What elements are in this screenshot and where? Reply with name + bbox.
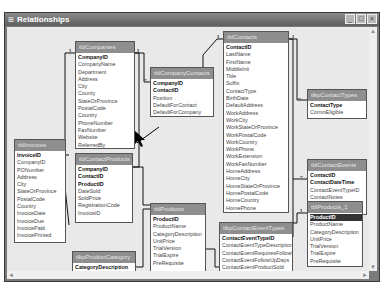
table-tblCompanies[interactable]: tblCompanies CompanyIDCompanyNameDepartm… — [75, 41, 135, 149]
field-item[interactable]: WorkPostalCode — [226, 132, 288, 139]
field-item[interactable]: DefaultAddress — [226, 102, 288, 109]
table-tblContactProducts[interactable]: tblContactProducts CompanyIDContactIDPro… — [75, 153, 133, 223]
field-item[interactable]: ProductName — [310, 221, 362, 228]
field-item[interactable]: TrialVersion — [310, 243, 362, 250]
title-bar[interactable]: ⊞ Relationships _ □ × — [5, 13, 379, 26]
maximize-button[interactable]: □ — [356, 14, 366, 24]
field-item[interactable]: InvoiceID — [78, 210, 132, 217]
field-item[interactable]: StateOrProvince — [78, 98, 134, 105]
field-item[interactable]: City — [17, 181, 65, 188]
table-header[interactable]: tblCompanies — [76, 42, 134, 53]
scroll-up-arrow-icon[interactable]: ▲ — [369, 27, 377, 35]
table-header[interactable]: tblContactProducts — [76, 154, 132, 165]
scroll-right-arrow-icon[interactable]: ► — [361, 271, 369, 279]
field-item[interactable]: ProductName — [153, 223, 205, 230]
table-header[interactable]: tblContacts — [224, 32, 288, 43]
table-header[interactable]: tlkpContactEventTypes — [220, 223, 292, 234]
field-item[interactable]: StateOrProvince — [17, 188, 65, 195]
field-item[interactable]: CategoryDescription — [153, 231, 205, 238]
table-header[interactable]: tblProducts — [151, 204, 205, 215]
field-item[interactable]: WorkFaxNumber — [226, 161, 288, 168]
field-item[interactable]: SoldPrice — [78, 195, 132, 202]
field-item[interactable]: CompanyID — [17, 159, 65, 166]
field-item[interactable]: ContactEventTypeDescription — [222, 242, 292, 249]
table-tblCompanyContacts[interactable]: tblCompanyContacts CompanyIDContactIDPos… — [150, 67, 214, 117]
field-item[interactable]: Address — [17, 174, 65, 181]
field-item[interactable]: ContactDateTime — [310, 179, 366, 186]
minimize-button[interactable]: _ — [345, 14, 355, 24]
field-item[interactable]: Country — [17, 203, 65, 210]
field-item[interactable]: ContactID — [310, 172, 366, 179]
field-item[interactable]: Title — [226, 73, 288, 80]
field-item[interactable]: InvoiceDate — [17, 210, 65, 217]
field-item[interactable]: ProductID — [78, 181, 132, 188]
field-item[interactable]: ContactEventFollowUpDays — [222, 257, 292, 264]
field-item[interactable]: PostalCode — [17, 196, 65, 203]
field-item[interactable]: MiddleInit — [226, 66, 288, 73]
field-item[interactable]: ProductID — [310, 214, 362, 221]
field-item[interactable]: HomeStateOrProvince — [226, 183, 288, 190]
field-item[interactable]: TrialExpire — [310, 250, 362, 257]
close-button[interactable]: × — [367, 14, 377, 24]
field-item[interactable]: CompanyName — [78, 61, 134, 68]
table-tblContacts[interactable]: tblContacts ContactIDLastNameFirstNameMi… — [223, 31, 289, 213]
field-item[interactable]: County — [78, 90, 134, 97]
field-item[interactable]: ContactType — [310, 102, 366, 109]
field-item[interactable]: HomeCity — [226, 175, 288, 182]
table-header[interactable]: tblProducts_1 — [308, 202, 362, 213]
field-item[interactable]: WorkStateOrProvince — [226, 124, 288, 131]
field-item[interactable]: ReferredBy — [78, 142, 134, 149]
table-header[interactable]: tblCompanyContacts — [151, 68, 213, 79]
field-item[interactable]: Department — [78, 69, 134, 76]
field-item[interactable]: DateSold — [78, 188, 132, 195]
field-item[interactable]: HomeCountry — [226, 197, 288, 204]
field-item[interactable]: LastName — [226, 51, 288, 58]
field-item[interactable]: ContactID — [153, 87, 213, 94]
field-item[interactable]: ContactEventProductSold — [222, 264, 292, 271]
field-item[interactable]: Address — [78, 76, 134, 83]
field-item[interactable]: Website — [78, 134, 134, 141]
table-tlkpContactTypes[interactable]: tlkpContactTypes ContactTypeCommEligible — [307, 89, 367, 119]
field-item[interactable]: PhoneNumber — [78, 120, 134, 127]
scroll-down-arrow-icon[interactable]: ▼ — [369, 263, 377, 271]
field-item[interactable]: WorkCity — [226, 117, 288, 124]
field-item[interactable]: PONumber — [17, 167, 65, 174]
field-item[interactable]: CompanyID — [78, 54, 134, 61]
table-header[interactable]: tlkpProductCategory — [73, 252, 135, 263]
field-item[interactable]: PreRequisite — [310, 258, 362, 265]
field-item[interactable]: City — [78, 83, 134, 90]
field-item[interactable]: ContactID — [226, 44, 288, 51]
field-item[interactable]: WorkAddress — [226, 110, 288, 117]
field-item[interactable]: CompanyID — [153, 80, 213, 87]
field-item[interactable]: RegistrationCode — [78, 202, 132, 209]
field-item[interactable]: Country — [78, 112, 134, 119]
field-item[interactable]: UnitPrice — [153, 238, 205, 245]
field-item[interactable]: HomeAddress — [226, 168, 288, 175]
field-item[interactable]: ContactEventTypeID — [222, 235, 292, 242]
field-item[interactable]: WorkCountry — [226, 139, 288, 146]
field-item[interactable]: InvoicePrinted — [17, 232, 65, 239]
table-header[interactable]: tblContactEvents — [308, 160, 366, 171]
field-item[interactable]: DefaultForContact — [153, 102, 213, 109]
field-item[interactable]: WorkExtension — [226, 153, 288, 160]
field-item[interactable]: TrialExpire — [153, 252, 205, 259]
field-item[interactable]: ContactEventRequiresFollowUp — [222, 250, 292, 257]
field-item[interactable]: Suffix — [226, 80, 288, 87]
field-item[interactable]: InvoicePaid — [17, 225, 65, 232]
field-item[interactable]: CategoryDescription — [310, 229, 362, 236]
relationships-canvas[interactable]: tblCompanies CompanyIDCompanyNameDepartm… — [7, 27, 369, 271]
field-item[interactable]: ContactEventTypeID — [310, 187, 366, 194]
field-item[interactable]: HomePhone — [226, 205, 288, 212]
field-item[interactable]: InvoiceID — [17, 152, 65, 159]
field-item[interactable]: CategoryDescription — [75, 264, 135, 271]
field-item[interactable]: CompanyID — [78, 166, 132, 173]
table-tlkpProductCategory[interactable]: tlkpProductCategory CategoryDescription — [72, 251, 136, 271]
field-item[interactable]: ContactType — [226, 88, 288, 95]
scroll-left-arrow-icon[interactable]: ◄ — [7, 271, 15, 279]
table-tblInvoices[interactable]: tblInvoices InvoiceIDCompanyIDPONumberAd… — [14, 139, 66, 243]
field-item[interactable]: TrialVersion — [153, 245, 205, 252]
field-item[interactable]: ProductID — [153, 216, 205, 223]
table-tlkpContactEventTypes[interactable]: tlkpContactEventTypes ContactEventTypeID… — [219, 222, 293, 271]
field-item[interactable]: WorkPhone — [226, 146, 288, 153]
field-item[interactable]: Position — [153, 95, 213, 102]
